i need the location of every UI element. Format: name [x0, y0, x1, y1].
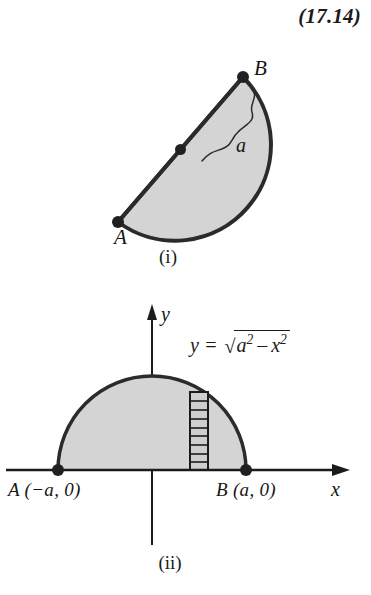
point-b-dot: [237, 71, 249, 83]
radical-sign: √: [224, 335, 235, 358]
y-axis-label: y: [161, 303, 170, 326]
y-axis-arrowhead: [147, 304, 157, 320]
figure-ii-point-a-label: A (−a, 0): [8, 479, 81, 501]
x-axis-label: x: [331, 478, 340, 501]
radicand-first-exponent: 2: [246, 332, 253, 347]
figure-i-radius-label: a: [236, 134, 246, 157]
radicand-first-base: a: [236, 334, 246, 356]
figure-page: (17.14) A B a (i): [0, 0, 371, 595]
figure-i-caption: (i): [138, 246, 198, 268]
curve-equation: y = √a2 – x2: [190, 330, 290, 357]
figure-ii-point-b-label: B (a, 0): [216, 479, 276, 501]
x-axis-arrowhead: [332, 464, 350, 476]
radicand-second-exponent: 2: [280, 332, 287, 347]
curve-equation-equals: =: [204, 334, 218, 356]
half-disk-region: [118, 77, 271, 241]
figure-i-point-a-label: A: [114, 225, 127, 250]
figure-i-graphic: [0, 0, 371, 260]
radicand: a2 – x2: [234, 330, 290, 357]
radical-group: √a2 – x2: [222, 330, 290, 357]
curve-equation-lhs: y: [190, 334, 199, 356]
radicand-second-base: x: [271, 334, 280, 356]
center-point-dot: [175, 144, 186, 155]
point-a-dot: [52, 464, 64, 476]
figure-ii-graphic: [0, 290, 371, 550]
semicircle-region-fill: [58, 376, 246, 470]
riemann-strip: [190, 392, 208, 470]
figure-ii-caption: (ii): [140, 552, 200, 574]
figure-i-point-b-label: B: [254, 56, 267, 81]
radicand-operator: –: [257, 334, 267, 356]
point-b-dot: [240, 464, 252, 476]
